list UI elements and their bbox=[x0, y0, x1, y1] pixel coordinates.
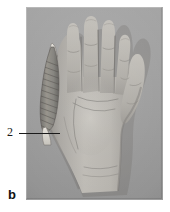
callout-number-2: 2 bbox=[7, 125, 21, 140]
photo-border bbox=[26, 7, 163, 200]
panel-label-b: b bbox=[8, 187, 24, 203]
hand-photograph bbox=[26, 7, 163, 200]
anatomical-figure-panel: 2 b bbox=[0, 0, 170, 212]
